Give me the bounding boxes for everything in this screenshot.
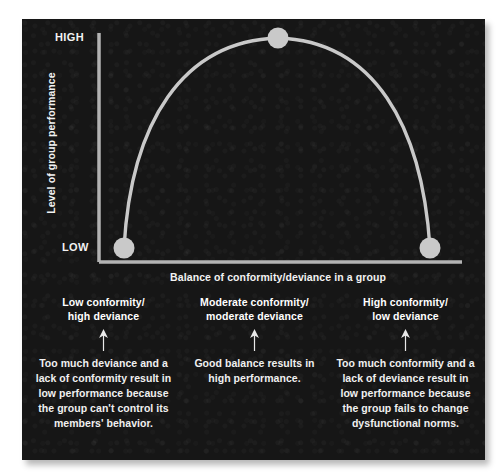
y-axis-tick-high: HIGH	[55, 31, 84, 43]
marker-moderate-conformity	[268, 28, 289, 49]
arrow-up-icon	[249, 329, 260, 351]
annotation-high-conformity: High conformity/ low deviance Too much c…	[334, 295, 477, 431]
annotation-heading-line1: High conformity/	[363, 296, 448, 308]
annotation-heading-line2: low deviance	[372, 310, 439, 322]
annotation-heading-line1: Low conformity/	[62, 296, 145, 308]
annotation-low-conformity: Low conformity/ high deviance Too much d…	[32, 295, 175, 431]
y-axis-title: Level of group performance	[45, 58, 57, 228]
arrow-up-icon	[98, 329, 109, 351]
annotation-heading-line1: Moderate conformity/	[200, 296, 309, 308]
annotation-row: Low conformity/ high deviance Too much d…	[32, 295, 477, 431]
annotation-body: Too much deviance and a lack of conformi…	[32, 356, 175, 431]
x-axis-title: Balance of conformity/deviance in a grou…	[98, 271, 458, 283]
annotation-heading-line2: moderate deviance	[206, 310, 303, 322]
annotation-moderate-conformity: Moderate conformity/ moderate deviance G…	[183, 295, 326, 386]
marker-high-conformity	[420, 238, 441, 259]
annotation-heading-line2: high deviance	[68, 310, 139, 322]
annotation-body: Too much conformity and a lack of devian…	[334, 356, 477, 431]
marker-low-conformity	[114, 238, 135, 259]
annotation-heading: High conformity/ low deviance	[363, 295, 448, 323]
figure-panel: HIGH LOW Level of group performance Bala…	[22, 19, 485, 460]
annotation-heading: Low conformity/ high deviance	[62, 295, 145, 323]
arrow-up-icon	[400, 329, 411, 351]
y-axis-tick-low: LOW	[62, 241, 89, 253]
inverted-u-curve	[124, 38, 430, 248]
annotation-heading: Moderate conformity/ moderate deviance	[200, 295, 309, 323]
annotation-body: Good balance results in high performance…	[183, 356, 326, 386]
